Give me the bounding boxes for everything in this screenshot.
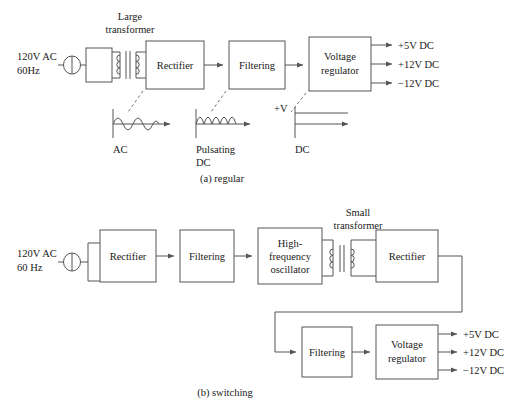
switching-source-line2: 60 Hz xyxy=(17,262,43,273)
regular-block-rectifier-label: Rectifier xyxy=(157,60,194,71)
regular-block-regulator-label-line2: regulator xyxy=(321,65,359,76)
waveform-dc xyxy=(295,107,348,138)
power-supply-diagram: 120V AC 60Hz Large transformer Rectifier… xyxy=(0,0,506,415)
waveform-ac-label: AC xyxy=(113,144,128,155)
switching-transformer-label-line1: Small xyxy=(346,207,371,218)
figure-root: 120V AC 60Hz Large transformer Rectifier… xyxy=(0,0,506,415)
caption-regular: (a) regular xyxy=(200,173,245,185)
waveform-pulsating-dc-label-line2: DC xyxy=(196,157,211,168)
caption-switching: (b) switching xyxy=(197,387,253,399)
switching-block-filtering-2-label: Filtering xyxy=(309,347,346,358)
switching-block-filtering-1-label: Filtering xyxy=(189,251,226,262)
regular-output-0: +5V DC xyxy=(398,40,434,51)
switching-output-2: −12V DC xyxy=(463,365,504,376)
regular-output-1: +12V DC xyxy=(398,59,439,70)
regular-block-regulator-label-line1: Voltage xyxy=(324,51,356,62)
switching-source-line1: 120V AC xyxy=(17,248,57,259)
regular-source-line2: 60Hz xyxy=(17,65,40,76)
regular-block-voltage-regulator[interactable] xyxy=(309,37,371,91)
switching-block-regulator-label-line2: regulator xyxy=(388,353,426,364)
switching-block-regulator-label-line1: Voltage xyxy=(391,339,423,350)
regular-output-2: −12V DC xyxy=(398,78,439,89)
switching-block-oscillator-label-line1: High- xyxy=(278,238,303,249)
switching-transformer-icon xyxy=(322,240,362,276)
regular-transformer-label-line1: Large xyxy=(118,11,143,22)
regular-source-line1: 120V AC xyxy=(17,51,57,62)
switching-block-rectifier-1-label: Rectifier xyxy=(110,251,147,262)
switching-block-oscillator-label-line2: frequency xyxy=(269,251,312,262)
ac-plug-icon-switching xyxy=(58,253,81,271)
switching-block-voltage-regulator[interactable] xyxy=(376,325,438,379)
regular-transformer-label-line2: transformer xyxy=(106,24,155,35)
regular-transformer-icon xyxy=(112,51,146,79)
switching-transformer-label-line2: transformer xyxy=(334,220,383,231)
regular-block-filtering-label: Filtering xyxy=(239,60,276,71)
waveform-pulsating-dc-label-line1: Pulsating xyxy=(196,144,236,155)
waveform-dc-axis-label: +V xyxy=(274,103,288,114)
switching-output-1: +12V DC xyxy=(463,347,504,358)
regular-primary-loop xyxy=(86,48,112,82)
switching-block-rectifier-2-label: Rectifier xyxy=(389,251,426,262)
waveform-pulsating-dc xyxy=(196,109,250,138)
ac-plug-icon xyxy=(58,56,81,74)
switching-output-0: +5V DC xyxy=(463,329,499,340)
waveform-dc-label: DC xyxy=(295,144,310,155)
switching-block-oscillator-label-line3: oscillator xyxy=(270,264,310,275)
waveform-ac xyxy=(113,109,170,138)
